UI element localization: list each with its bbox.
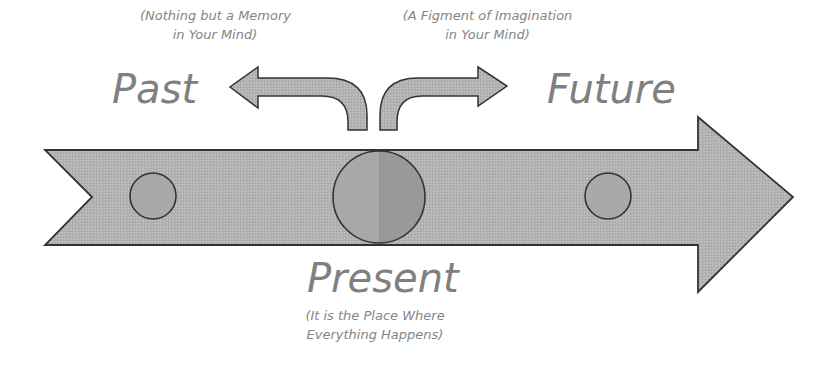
past-note-line2: in Your Mind) (140, 25, 290, 44)
past-note: (Nothing but a Memory in Your Mind) (140, 6, 290, 44)
future-note-line1: (A Figment of Imagination (400, 6, 575, 25)
present-note-line2: Everything Happens) (300, 325, 450, 344)
curved-arrow-left-icon (230, 67, 367, 130)
present-label: Present (307, 255, 459, 301)
past-note-line1: (Nothing but a Memory (140, 6, 290, 25)
future-note-line2: in Your Mind) (400, 25, 575, 44)
future-point-icon (585, 173, 631, 219)
curved-arrow-right-icon (380, 67, 507, 130)
past-label: Past (112, 66, 197, 112)
timeline-diagram: (Nothing but a Memory in Your Mind) Past… (0, 0, 837, 375)
present-note-line1: (It is the Place Where (300, 306, 450, 325)
past-point-icon (130, 173, 176, 219)
future-label: Future (547, 66, 676, 112)
present-point-icon (333, 150, 425, 244)
present-note: (It is the Place Where Everything Happen… (300, 306, 450, 344)
future-note: (A Figment of Imagination in Your Mind) (400, 6, 575, 44)
